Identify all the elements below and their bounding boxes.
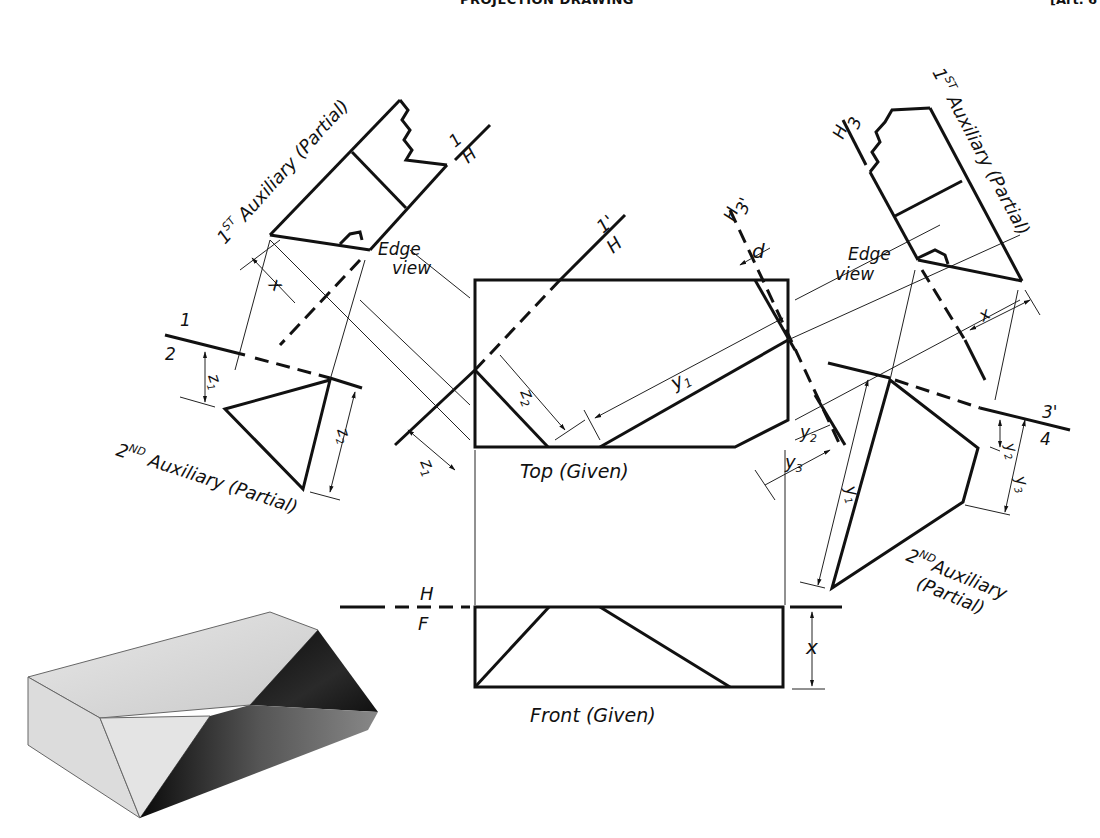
top-view (270, 210, 1020, 605)
ref-3prime-right: 3' (1042, 402, 1058, 422)
left-second-aux-caption: 2ND Auxiliary (Partial) (114, 438, 301, 517)
ref-1prime: 1' (592, 210, 618, 237)
ref-h-front: H (420, 583, 434, 604)
dim-y3-top: y3 (784, 451, 803, 475)
dim-z2-aux: z2 (331, 424, 356, 445)
dim-d: d (752, 239, 765, 263)
dim-y2-aux: y2 (999, 440, 1023, 462)
dim-y1-top: y1 (666, 365, 695, 396)
ref-4-right: 4 (1040, 429, 1051, 449)
dim-z1-top: z1 (413, 455, 441, 480)
front-view (340, 607, 842, 689)
svg-text:1ST Auxiliary (Partial): 1ST Auxiliary (Partial) (928, 64, 1035, 239)
svg-text:2ND Auxiliary (Partial): 2ND Auxiliary (Partial) (114, 438, 301, 517)
dim-y2-top: y2 (799, 422, 817, 445)
dim-y1-aux: y1 (839, 482, 865, 505)
edge-view-label-right: Edge (848, 244, 891, 264)
pictorial-block (28, 612, 378, 818)
edge-view-label-left-2: view (392, 258, 431, 278)
right-second-aux-caption: 2NDAuxiliary (Partial) (895, 543, 1011, 624)
ref-f: F (418, 613, 429, 634)
projection-drawing: y1 z2 z1 y2 y3 d Top (Given) 1' H H 3' H… (0, 0, 1100, 838)
dim-z1-aux: z1 (202, 370, 227, 391)
ref-2-lower-left: 2 (165, 344, 176, 364)
front-view-caption: Front (Given) (530, 704, 656, 726)
edge-view-label-left: Edge (378, 239, 421, 259)
top-view-caption: Top (Given) (520, 460, 629, 482)
edge-view-label-right-2: view (835, 264, 874, 284)
right-first-aux-caption: 1ST Auxiliary (Partial) (928, 64, 1035, 239)
ref-1-lower-left: 1 (180, 310, 191, 330)
dim-x-front: x (805, 635, 818, 659)
